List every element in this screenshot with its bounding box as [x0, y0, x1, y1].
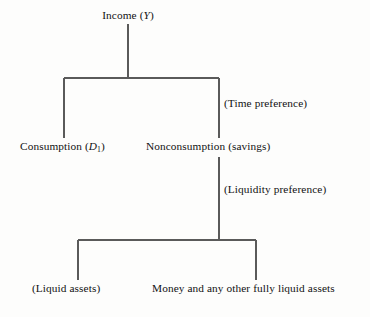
edge-label-liquidity-preference: (Liquidity preference)	[224, 184, 326, 196]
diagram-connector-lines	[0, 0, 370, 317]
node-consumption-subscript: 1	[97, 145, 101, 154]
node-consumption: Consumption (D1)	[20, 141, 105, 154]
income-flow-diagram: Income (Y) Consumption (D1) Nonconsumpti…	[0, 0, 370, 317]
node-income-text: Income	[102, 9, 136, 21]
node-income: Income (Y)	[102, 10, 154, 22]
node-liquid-assets: (Liquid assets)	[32, 283, 100, 295]
node-consumption-text: Consumption	[20, 140, 82, 152]
node-nonconsumption: Nonconsumption (savings)	[146, 141, 270, 153]
edge-label-time-preference: (Time preference)	[224, 98, 307, 110]
node-income-symbol: Y	[144, 9, 150, 21]
node-consumption-symbol: D	[89, 140, 97, 152]
node-money-and-fully-liquid-assets: Money and any other fully liquid assets	[152, 283, 335, 295]
